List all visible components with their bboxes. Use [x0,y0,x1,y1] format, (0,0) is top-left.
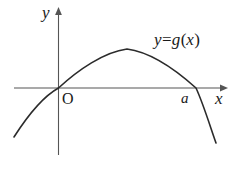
equation-equals-sign: = [162,30,172,49]
equation-lhs: y [154,30,162,49]
curve-equation-label: y=g(x) [154,31,200,48]
origin-label: O [62,91,74,107]
y-axis-label: y [42,4,50,21]
equation-close-paren: ) [194,30,200,49]
figure-background [0,0,238,169]
x-axis-label: x [215,90,223,107]
equation-function-name: g [172,30,181,49]
graph-figure [0,0,238,169]
x-intercept-label: a [181,91,189,106]
